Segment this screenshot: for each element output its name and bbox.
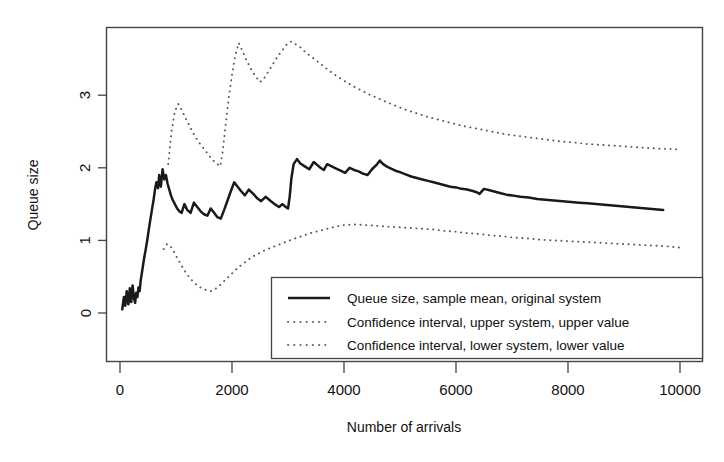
x-tick-label: 8000 xyxy=(551,381,584,398)
chart-legend: Queue size, sample mean, original system… xyxy=(272,278,703,359)
x-tick-label: 2000 xyxy=(215,381,248,398)
queue-size-line-chart: 0123 0200040006000800010000 Queue size N… xyxy=(0,0,724,462)
chart-figure: 0123 0200040006000800010000 Queue size N… xyxy=(0,0,724,462)
x-tick-label: 10000 xyxy=(659,381,701,398)
x-axis-title: Number of arrivals xyxy=(347,419,461,435)
y-tick-label: 0 xyxy=(77,309,94,317)
x-tick-label: 4000 xyxy=(327,381,360,398)
legend-label-series-2: Confidence interval, upper system, upper… xyxy=(347,315,629,330)
y-tick-label: 1 xyxy=(77,236,94,244)
x-tick-label: 0 xyxy=(116,381,124,398)
y-tick-label: 2 xyxy=(77,164,94,172)
chart-background xyxy=(0,0,724,462)
x-tick-label: 6000 xyxy=(439,381,472,398)
legend-label-series-1: Queue size, sample mean, original system xyxy=(347,291,601,306)
y-axis-title: Queue size xyxy=(25,159,41,230)
legend-label-series-3: Confidence interval, lower system, lower… xyxy=(347,338,625,353)
y-tick-label: 3 xyxy=(77,91,94,99)
